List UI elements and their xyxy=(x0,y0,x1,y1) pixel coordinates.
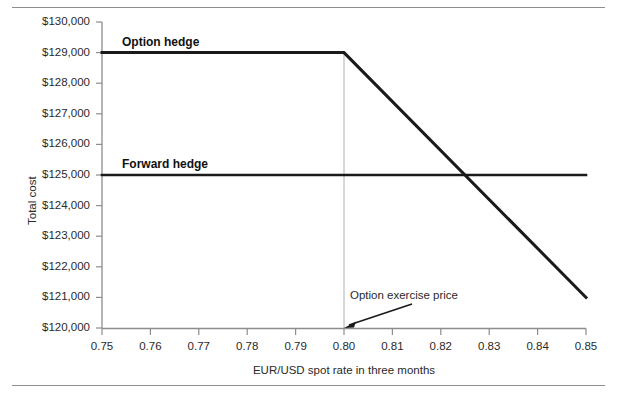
xtick-label-076: 0.76 xyxy=(125,340,175,352)
option-exercise-price-arrow xyxy=(344,304,412,328)
xtick-label-080: 0.80 xyxy=(319,340,369,352)
ytick-label-120000: $120,000 xyxy=(10,321,90,333)
xtick-label-077: 0.77 xyxy=(174,340,224,352)
series-label-forward-hedge: Forward hedge xyxy=(122,157,208,171)
xtick-label-081: 0.81 xyxy=(367,340,417,352)
ytick-label-124000: $124,000 xyxy=(10,199,90,211)
ytick-label-127000: $127,000 xyxy=(10,107,90,119)
ytick-label-123000: $123,000 xyxy=(10,229,90,241)
xtick-label-084: 0.84 xyxy=(513,340,563,352)
chart-figure: $130,000 $129,000 $128,000 $127,000 $126… xyxy=(0,0,617,393)
ytick-label-125000: $125,000 xyxy=(10,168,90,180)
ytick-label-126000: $126,000 xyxy=(10,137,90,149)
xtick-label-085: 0.85 xyxy=(561,340,611,352)
xtick-label-079: 0.79 xyxy=(271,340,321,352)
xtick-label-083: 0.83 xyxy=(464,340,514,352)
xtick-label-082: 0.82 xyxy=(416,340,466,352)
y-axis-title: Total cost xyxy=(26,176,38,225)
ytick-label-122000: $122,000 xyxy=(10,260,90,272)
x-axis-ticks xyxy=(102,329,586,336)
ytick-label-130000: $130,000 xyxy=(10,15,90,27)
ytick-label-129000: $129,000 xyxy=(10,46,90,58)
x-axis-title: EUR/USD spot rate in three months xyxy=(194,364,494,376)
plot-area xyxy=(0,0,617,393)
series-label-option-hedge: Option hedge xyxy=(122,35,199,49)
xtick-label-075: 0.75 xyxy=(77,340,127,352)
xtick-label-078: 0.78 xyxy=(222,340,272,352)
ytick-label-128000: $128,000 xyxy=(10,76,90,88)
annotation-option-exercise-price: Option exercise price xyxy=(350,289,458,301)
ytick-label-121000: $121,000 xyxy=(10,290,90,302)
